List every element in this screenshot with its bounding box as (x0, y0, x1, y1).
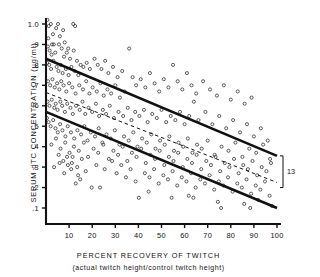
scatter-point (251, 159, 254, 162)
scatter-point (84, 170, 87, 173)
scatter-point (159, 139, 162, 142)
scatter-point (95, 164, 98, 167)
scatter-point (52, 119, 55, 122)
scatter-point (138, 114, 141, 117)
scatter-point (268, 194, 271, 197)
scatter-point (177, 141, 180, 144)
scatter-point (56, 22, 59, 25)
scatter-point (127, 139, 130, 142)
scatter-point (185, 180, 188, 183)
scatter-point (172, 159, 175, 162)
scatter-point (176, 184, 179, 187)
scatter-point (225, 127, 228, 130)
scatter-point (64, 141, 67, 144)
scatter-point (227, 149, 230, 152)
scatter-point (172, 63, 175, 66)
scatter-point (77, 174, 80, 177)
scatter-point (181, 88, 184, 91)
scatter-point (135, 84, 138, 87)
bracket-label: 13 (287, 167, 295, 176)
scatter-point (117, 153, 120, 156)
scatter-point (116, 76, 119, 79)
y-axis-title: SERUM dTC CONCENTRATION (µg/ml) (29, 28, 38, 218)
scatter-point (80, 133, 83, 136)
scatter-point (57, 43, 60, 46)
scatter-point (48, 104, 51, 107)
scatter-point (92, 147, 95, 150)
scatter-point (67, 47, 70, 50)
scatter-point (72, 49, 75, 52)
scatter-point (93, 135, 96, 138)
scatter-point (80, 157, 83, 160)
x-axis-tick-label: 70 (203, 231, 212, 240)
scatter-point (190, 84, 193, 87)
scatter-point (250, 96, 253, 99)
scatter-point (202, 80, 205, 83)
scatter-point (153, 82, 156, 85)
scatter-point (65, 90, 68, 93)
scatter-point (59, 100, 62, 103)
scatter-point (50, 98, 53, 101)
scatter-point (269, 157, 272, 160)
scatter-point (53, 106, 56, 109)
scatter-point (85, 61, 88, 64)
scatter-point (58, 161, 61, 164)
scatter-point (158, 149, 161, 152)
scatter-point (147, 190, 150, 193)
scatter-point (67, 74, 70, 77)
scatter-point (228, 166, 231, 169)
range-bracket (280, 156, 283, 188)
scatter-point (100, 67, 103, 70)
scatter-point (245, 123, 248, 126)
scatter-point (172, 149, 175, 152)
scatter-point (222, 84, 225, 87)
scatter-point (71, 155, 74, 158)
scatter-point (61, 129, 64, 132)
scatter-point (170, 196, 173, 199)
scatter-point (200, 147, 203, 150)
scatter-point (148, 176, 151, 179)
scatter-point (209, 164, 212, 167)
scatter-point (200, 168, 203, 171)
scatter-point (121, 69, 124, 72)
scatter-point (169, 114, 172, 117)
scatter-point (81, 88, 84, 91)
scatter-point (232, 119, 235, 122)
scatter-point (110, 92, 113, 95)
scatter-point (111, 159, 114, 162)
scatter-point (93, 57, 96, 60)
scatter-point (65, 51, 68, 54)
scatter-point (146, 121, 149, 124)
scatter-point (134, 180, 137, 183)
scatter-point (50, 143, 53, 146)
scatter-point (72, 145, 75, 148)
scatter-point (130, 119, 133, 122)
scatter-point (94, 102, 97, 105)
scatter-point (249, 206, 252, 209)
scatter-point (71, 86, 74, 89)
scatter-point (59, 147, 62, 150)
scatter-point (71, 112, 74, 115)
x-axis-tick-label: 10 (65, 231, 74, 240)
scatter-point (74, 92, 77, 95)
scatter-point (90, 186, 93, 189)
scatter-point (269, 161, 272, 164)
scatter-point (66, 102, 69, 105)
scatter-point (208, 174, 211, 177)
scatter-point (47, 37, 50, 40)
scatter-point (148, 72, 151, 75)
scatter-point (82, 141, 85, 144)
scatter-point (243, 202, 246, 205)
scatter-point (50, 67, 53, 70)
scatter-point (47, 121, 50, 124)
scatter-point (97, 127, 100, 130)
scatter-point (243, 102, 246, 105)
scatter-point (166, 178, 169, 181)
scatter-point (111, 65, 114, 68)
scatter-point (250, 192, 253, 195)
scatter-point (123, 135, 126, 138)
scatter-point (55, 27, 58, 30)
scatter-point (174, 119, 177, 122)
scatter-point (107, 72, 110, 75)
scatter-point (64, 135, 67, 138)
